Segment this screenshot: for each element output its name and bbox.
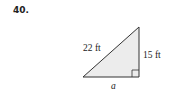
vertical-leg-label: 15 ft bbox=[143, 50, 161, 60]
horizontal-leg-label: a bbox=[111, 81, 116, 91]
hypotenuse-label: 22 ft bbox=[83, 43, 101, 53]
right-triangle-figure: 22 ft 15 ft a bbox=[0, 0, 172, 105]
